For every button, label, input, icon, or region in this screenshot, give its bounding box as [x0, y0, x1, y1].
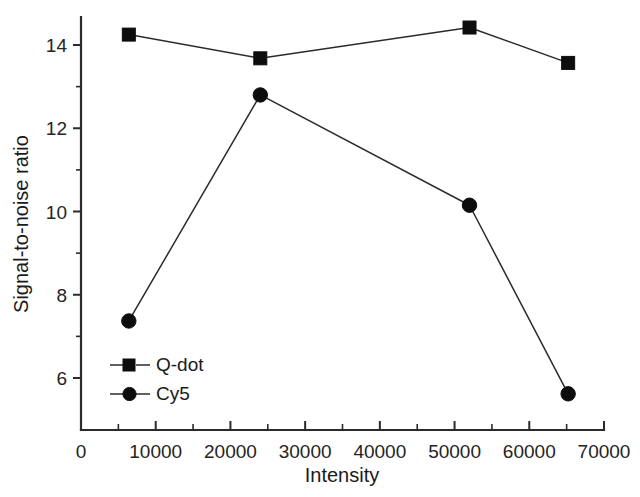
data-point-marker-circle	[462, 198, 476, 212]
x-tick-label: 40000	[353, 441, 406, 462]
x-axis-tick-labels: 010000200003000040000500006000070000	[76, 441, 631, 462]
signal-to-noise-line-chart: 68101214 0100002000030000400005000060000…	[0, 0, 640, 497]
legend-marker-square	[123, 359, 135, 371]
chart-figure: 68101214 0100002000030000400005000060000…	[0, 0, 640, 497]
x-axis-ticks	[81, 421, 604, 430]
x-tick-label: 60000	[503, 441, 556, 462]
legend-label: Cy5	[156, 383, 190, 404]
data-point-marker-circle	[122, 314, 136, 328]
series-q-dot	[122, 21, 574, 69]
x-axis-title: Intensity	[305, 464, 379, 486]
y-tick-label: 14	[46, 35, 68, 56]
legend-marker-circle	[123, 387, 136, 400]
data-point-marker-square	[463, 21, 476, 34]
y-tick-label: 6	[56, 368, 67, 389]
data-point-marker-square	[562, 56, 575, 69]
y-tick-label: 12	[46, 118, 67, 139]
legend-item-q-dot: Q-dot	[110, 354, 204, 375]
chart-legend: Q-dotCy5	[110, 354, 204, 404]
y-tick-label: 8	[56, 285, 67, 306]
y-axis-ticks	[73, 45, 81, 378]
series-line	[129, 28, 568, 63]
data-point-marker-circle	[253, 88, 267, 102]
series-line	[129, 95, 568, 394]
data-point-marker-square	[254, 52, 267, 65]
x-tick-label: 20000	[204, 441, 257, 462]
legend-item-cy5: Cy5	[110, 383, 190, 404]
y-axis-tick-labels: 68101214	[46, 35, 68, 389]
x-tick-label: 30000	[279, 441, 332, 462]
legend-label: Q-dot	[156, 354, 204, 375]
data-point-marker-circle	[561, 387, 575, 401]
x-tick-label: 70000	[578, 441, 631, 462]
x-tick-label: 10000	[129, 441, 182, 462]
x-tick-label: 50000	[428, 441, 481, 462]
y-axis-title: Signal-to-noise ratio	[10, 135, 32, 313]
data-series-layer	[122, 21, 576, 401]
x-tick-label: 0	[76, 441, 87, 462]
y-tick-label: 10	[46, 202, 67, 223]
data-point-marker-square	[122, 28, 135, 41]
